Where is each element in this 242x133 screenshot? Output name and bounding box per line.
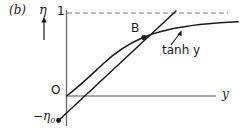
eta-axis-up-arrow xyxy=(41,17,46,41)
vertical-axis-label-eta: η xyxy=(39,3,47,16)
tanh-curve-label: tanh y xyxy=(162,44,200,56)
figure-panel-b: (b) η 1 O −η0 B tanh y y xyxy=(0,0,242,133)
neg-eta-zero-point xyxy=(56,118,61,123)
straight-line-through-b xyxy=(59,11,177,121)
horizontal-axis-label-y: y xyxy=(222,88,229,100)
point-b-marker xyxy=(141,35,146,40)
neg-eta-zero-label: −η0 xyxy=(33,110,55,125)
neg-eta-zero-main: −η xyxy=(33,109,50,123)
panel-label: (b) xyxy=(9,4,26,16)
tick-label-one: 1 xyxy=(57,5,65,17)
neg-eta-zero-subscript: 0 xyxy=(50,116,55,125)
point-b-label: B xyxy=(131,22,139,34)
origin-label: O xyxy=(51,84,60,96)
